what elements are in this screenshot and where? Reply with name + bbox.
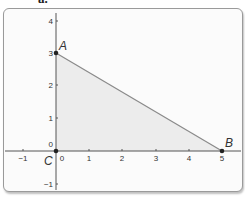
x-tick-label: 0 (60, 154, 65, 163)
point-c-label: C (44, 154, 53, 168)
point-a (54, 51, 59, 56)
x-tick-label: 5 (220, 154, 225, 163)
y-tick-label: −1 (44, 180, 54, 189)
y-tick-label: 2 (49, 81, 54, 90)
point-c (54, 149, 59, 154)
y-tick-label: 0 (49, 140, 54, 149)
x-tick-label: 1 (87, 154, 92, 163)
x-tick-label: 2 (120, 154, 125, 163)
point-b-label: B (225, 136, 233, 150)
y-tick-label: 1 (49, 114, 54, 123)
x-tick-label: 4 (187, 154, 192, 163)
point-a-label: A (58, 39, 67, 53)
x-tick-label: 3 (154, 154, 159, 163)
y-tick-label: 4 (49, 17, 54, 26)
point-b (220, 149, 225, 154)
x-tick-label: −1 (18, 154, 28, 163)
y-tick-label: 3 (49, 49, 54, 58)
coordinate-plane: −1 0 1 2 3 4 5 4 3 2 1 0 −1 A B C (0, 0, 245, 200)
